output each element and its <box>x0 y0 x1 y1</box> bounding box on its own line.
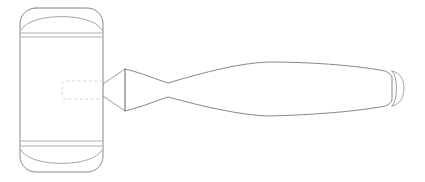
handle-body <box>125 62 392 116</box>
handle-group <box>125 62 404 116</box>
handle-endcap-edge <box>392 71 404 106</box>
mallet-head-group <box>20 8 103 172</box>
mallet-line-drawing <box>0 0 425 182</box>
neck-wedge <box>103 69 125 111</box>
drawing-canvas <box>0 0 425 182</box>
neck-wedge-group <box>103 69 125 111</box>
handle-endcap-arc <box>392 71 397 106</box>
